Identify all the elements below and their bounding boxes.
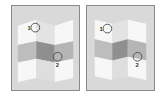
cell-top-center — [112, 20, 128, 43]
diagram-panel-right: 1 2 — [86, 5, 155, 91]
cell-bot-left — [95, 57, 112, 80]
folded-sheet-valley: 1 2 — [87, 6, 154, 90]
cell-bot-left — [18, 59, 36, 82]
diagram-panel-left: 1 2 — [11, 5, 80, 91]
folded-sheet-mountain: 1 2 — [12, 6, 79, 90]
cell-bot-center — [36, 59, 54, 82]
cell-bot-center — [112, 57, 128, 80]
cell-top-center — [36, 20, 54, 45]
cell-top-right — [55, 20, 73, 45]
marker-label-2: 2 — [136, 62, 139, 68]
marker-label-2: 2 — [56, 62, 59, 68]
cell-top-right — [128, 20, 146, 43]
